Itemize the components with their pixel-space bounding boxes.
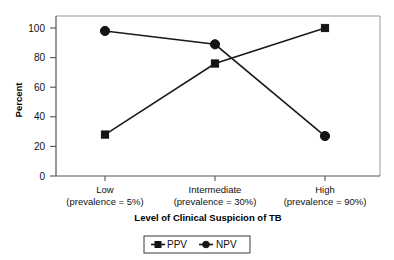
x-category-sublabel-low: (prevalence = 5%) [66, 196, 143, 207]
y-axis-ticks [50, 28, 56, 176]
y-tick-label-80: 80 [34, 52, 46, 63]
chart-legend: PPV NPV [144, 236, 250, 253]
circle-marker-icon [100, 26, 109, 35]
plot-frame [56, 16, 380, 176]
x-category-label-high: High [315, 184, 335, 195]
circle-marker-icon [320, 131, 329, 140]
x-category-sublabel-high: (prevalence = 90%) [284, 196, 367, 207]
legend-label-ppv: PPV [167, 239, 187, 250]
series-npv [100, 26, 329, 140]
square-marker-icon [155, 242, 161, 248]
series-layer [100, 24, 329, 140]
x-axis: Low (prevalence = 5%) Intermediate (prev… [56, 176, 380, 223]
y-axis-tick-labels: 0 20 40 60 80 100 [28, 23, 45, 182]
x-axis-category-labels: Low (prevalence = 5%) Intermediate (prev… [66, 184, 366, 207]
x-category-label-low: Low [96, 184, 114, 195]
x-axis-ticks [105, 176, 325, 181]
square-marker-icon [101, 131, 108, 138]
square-marker-icon [321, 24, 328, 31]
y-axis: 0 20 40 60 80 100 Percent [13, 16, 56, 182]
x-category-sublabel-intermediate: (prevalence = 30%) [174, 196, 257, 207]
x-axis-title: Level of Clinical Suspicion of TB [134, 212, 281, 223]
square-marker-icon [211, 60, 218, 67]
y-tick-label-60: 60 [34, 82, 46, 93]
y-tick-label-0: 0 [39, 171, 45, 182]
y-axis-title: Percent [13, 82, 24, 118]
y-tick-label-100: 100 [28, 23, 45, 34]
circle-marker-icon [203, 241, 210, 248]
x-category-label-intermediate: Intermediate [189, 184, 242, 195]
y-tick-label-20: 20 [34, 141, 46, 152]
circle-marker-icon [210, 40, 219, 49]
y-tick-label-40: 40 [34, 111, 46, 122]
chart-svg: 0 20 40 60 80 100 Percent Low (prevalenc… [0, 0, 394, 260]
chart-figure: 0 20 40 60 80 100 Percent Low (prevalenc… [0, 0, 394, 260]
legend-label-npv: NPV [216, 239, 237, 250]
